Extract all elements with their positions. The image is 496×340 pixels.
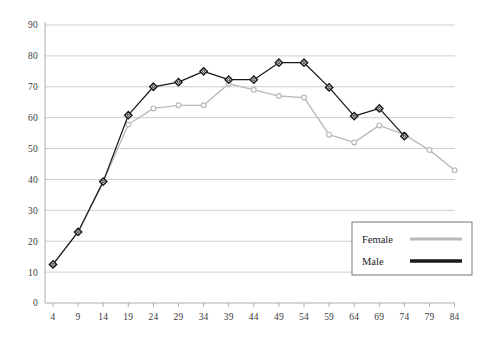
chart-legend: FemaleMale bbox=[352, 222, 472, 275]
data-point-marker-center bbox=[353, 115, 355, 117]
y-tick-label: 40 bbox=[28, 175, 38, 185]
y-tick-label: 10 bbox=[28, 268, 38, 278]
y-tick-label: 30 bbox=[28, 206, 38, 216]
data-point-marker bbox=[352, 140, 357, 145]
data-point-marker-center bbox=[253, 79, 255, 81]
x-tick-marks-group bbox=[53, 303, 455, 307]
data-point-marker bbox=[452, 168, 457, 173]
x-tick-label: 24 bbox=[148, 312, 158, 322]
data-point-marker-center bbox=[177, 81, 179, 83]
data-point-marker bbox=[151, 106, 156, 111]
x-tick-label: 4 bbox=[51, 312, 56, 322]
y-tick-label: 90 bbox=[28, 20, 38, 30]
data-point-marker-center bbox=[403, 135, 405, 137]
x-tick-label: 34 bbox=[199, 312, 209, 322]
data-point-marker-center bbox=[52, 263, 54, 265]
data-point-marker-center bbox=[378, 107, 380, 109]
x-tick-label: 64 bbox=[349, 312, 359, 322]
data-point-marker bbox=[201, 103, 206, 108]
x-tick-label: 49 bbox=[274, 312, 284, 322]
x-tick-label: 69 bbox=[374, 312, 384, 322]
y-axis-tick-labels: 0102030405060708090 bbox=[28, 20, 38, 308]
y-tick-label: 50 bbox=[28, 144, 38, 154]
data-point-marker-center bbox=[203, 70, 205, 72]
legend-label-male: Male bbox=[362, 256, 384, 267]
y-tick-label: 60 bbox=[28, 113, 38, 123]
chart-canvas: 0102030405060708090 49141924293439444954… bbox=[0, 0, 496, 340]
x-tick-label: 44 bbox=[249, 312, 259, 322]
x-tick-label: 14 bbox=[98, 312, 108, 322]
data-point-marker-center bbox=[127, 114, 129, 116]
x-tick-label: 54 bbox=[299, 312, 309, 322]
line-chart: 0102030405060708090 49141924293439444954… bbox=[0, 0, 496, 340]
y-tick-label: 0 bbox=[33, 298, 38, 308]
x-tick-label: 79 bbox=[425, 312, 435, 322]
legend-box bbox=[352, 222, 472, 275]
data-point-marker bbox=[251, 87, 256, 92]
data-point-marker bbox=[126, 122, 131, 127]
data-point-marker-center bbox=[152, 86, 154, 88]
data-point-marker bbox=[427, 148, 432, 153]
x-tick-label: 59 bbox=[324, 312, 334, 322]
data-point-marker bbox=[327, 132, 332, 137]
y-tick-label: 20 bbox=[28, 237, 38, 247]
x-tick-label: 74 bbox=[399, 312, 409, 322]
x-tick-label: 39 bbox=[224, 312, 234, 322]
data-point-marker bbox=[377, 123, 382, 128]
data-point-marker bbox=[176, 103, 181, 108]
data-point-marker-center bbox=[102, 181, 104, 183]
x-tick-label: 9 bbox=[76, 312, 81, 322]
data-point-marker bbox=[277, 94, 282, 99]
x-tick-label: 19 bbox=[123, 312, 133, 322]
x-axis-tick-labels: 49141924293439444954596469747984 bbox=[51, 312, 460, 322]
data-point-marker-center bbox=[278, 62, 280, 64]
y-tick-label: 80 bbox=[28, 51, 38, 61]
x-tick-label: 84 bbox=[450, 312, 460, 322]
data-point-marker bbox=[302, 95, 307, 100]
data-point-marker-center bbox=[303, 62, 305, 64]
data-point-marker-center bbox=[228, 79, 230, 81]
legend-label-female: Female bbox=[362, 234, 393, 245]
data-point-marker-center bbox=[328, 86, 330, 88]
y-tick-label: 70 bbox=[28, 82, 38, 92]
x-tick-label: 29 bbox=[174, 312, 184, 322]
data-point-marker-center bbox=[77, 231, 79, 233]
